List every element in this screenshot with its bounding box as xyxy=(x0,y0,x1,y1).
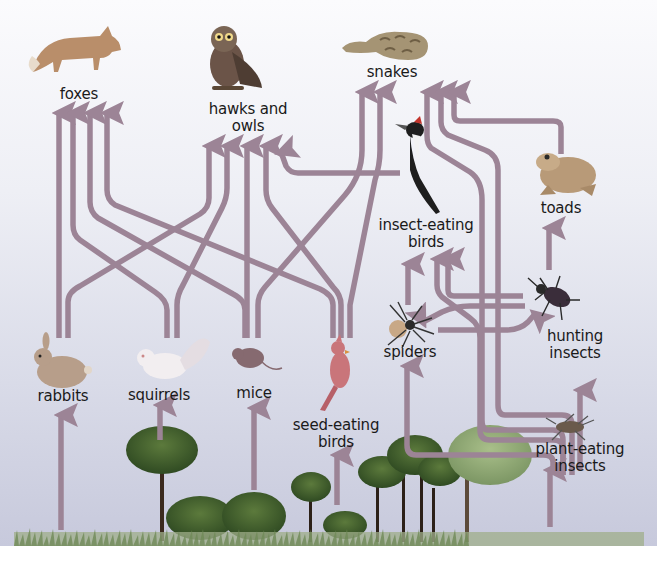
label-hunting-insects: hunting insects xyxy=(547,328,603,362)
label-seed-eating-birds: seed-eating birds xyxy=(293,417,380,451)
small-tree-icon xyxy=(291,472,367,542)
label-seed-eating-birds-line1: seed-eating xyxy=(293,417,380,434)
label-plant-eating-insects-line1: plant-eating xyxy=(536,441,625,458)
arrow-seed-birds-to-foxes xyxy=(107,113,333,338)
label-hawks-and-owls: hawks and owls xyxy=(209,101,288,135)
label-squirrels: squirrels xyxy=(128,387,190,404)
snake-icon xyxy=(342,32,428,60)
label-toads: toads xyxy=(541,200,582,217)
label-spiders: spiders xyxy=(384,344,437,361)
arrow-spiders-to-hunting-insects xyxy=(438,314,535,330)
toad-icon xyxy=(536,153,596,196)
label-foxes: foxes xyxy=(60,86,98,103)
label-plant-eating-insects-line2: insects xyxy=(536,458,625,475)
label-hunting-insects-line2: insects xyxy=(547,345,603,362)
label-mice: mice xyxy=(236,385,271,402)
arrow-squirrels-to-hawks xyxy=(177,146,227,338)
label-plant-eating-insects: plant-eating insects xyxy=(536,441,625,475)
label-seed-eating-birds-line2: birds xyxy=(293,434,380,451)
label-hawks-and-owls-line1: hawks and xyxy=(209,101,288,118)
label-hawks-and-owls-line2: owls xyxy=(209,118,288,135)
owl-icon xyxy=(210,26,262,90)
label-insect-eating-birds-line1: insect-eating xyxy=(378,217,473,234)
label-insect-eating-birds: insect-eating birds xyxy=(378,217,473,251)
label-snakes: snakes xyxy=(367,64,418,81)
mouse-icon xyxy=(232,348,282,369)
bottom-margin xyxy=(0,546,657,568)
arrow-plant-insects-to-snakes-2 xyxy=(441,92,572,475)
spider-icon xyxy=(388,302,434,348)
woodpecker-icon xyxy=(395,116,440,214)
food-web-diagram: foxes hawks and owls snakes toads insect… xyxy=(0,0,657,568)
rabbit-icon xyxy=(34,332,92,388)
arrow-squirrels-to-foxes xyxy=(73,113,167,338)
squirrel-icon xyxy=(137,339,210,379)
label-rabbits: rabbits xyxy=(38,388,89,405)
label-hunting-insects-line1: hunting xyxy=(547,328,603,345)
cardinal-icon xyxy=(320,334,350,411)
fox-icon xyxy=(29,26,121,72)
arrow-hunting-insects-to-insect-birds xyxy=(448,259,523,296)
arrow-seed-birds-to-snakes xyxy=(350,92,380,338)
beetle-icon xyxy=(528,276,580,320)
label-insect-eating-birds-line2: birds xyxy=(378,234,473,251)
